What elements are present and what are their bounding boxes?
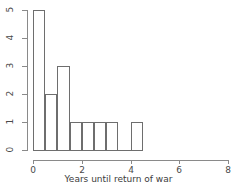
y-axis-tick: [22, 150, 27, 151]
y-axis-tick-label: 5: [6, 0, 15, 20]
y-axis-tick: [22, 94, 27, 95]
x-axis-tick: [179, 160, 180, 164]
histogram-bar: [33, 10, 45, 150]
y-axis-tick: [22, 66, 27, 67]
x-axis-tick: [228, 160, 229, 164]
y-axis-tick: [22, 10, 27, 11]
histogram-figure: 012345 02468 Years until return of war: [0, 0, 237, 186]
y-axis-line: [27, 10, 28, 151]
x-axis-title: Years until return of war: [0, 174, 237, 184]
y-axis-tick-label: 2: [6, 84, 15, 104]
x-axis-tick: [82, 160, 83, 164]
x-axis-tick: [131, 160, 132, 164]
histogram-bar: [131, 122, 143, 150]
histogram-bar: [106, 122, 118, 150]
x-axis-tick: [33, 160, 34, 164]
y-axis-tick: [22, 122, 27, 123]
y-axis-tick: [22, 38, 27, 39]
y-axis-tick-label: 4: [6, 28, 15, 48]
histogram-bar: [82, 122, 94, 150]
histogram-bar: [94, 122, 106, 150]
histogram-bar: [70, 122, 82, 150]
y-axis-tick-label: 1: [6, 112, 15, 132]
plot-area: [33, 10, 228, 150]
y-axis-tick-label: 3: [6, 56, 15, 76]
histogram-bar: [57, 66, 69, 150]
y-axis-tick-label: 0: [6, 140, 15, 160]
histogram-bar: [45, 94, 57, 150]
bar-baseline: [33, 150, 143, 151]
